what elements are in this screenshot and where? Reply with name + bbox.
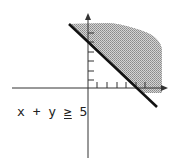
- inequality-rhs: 5: [72, 104, 88, 119]
- inequality-label: x + y ≥ 5: [17, 104, 87, 119]
- x-axis-arrow-icon: [161, 85, 168, 91]
- inequality-lhs: x + y: [17, 104, 64, 119]
- inequality-graph: [0, 0, 182, 163]
- inequality-operator: ≥: [64, 104, 72, 119]
- y-axis-arrow-icon: [85, 13, 91, 20]
